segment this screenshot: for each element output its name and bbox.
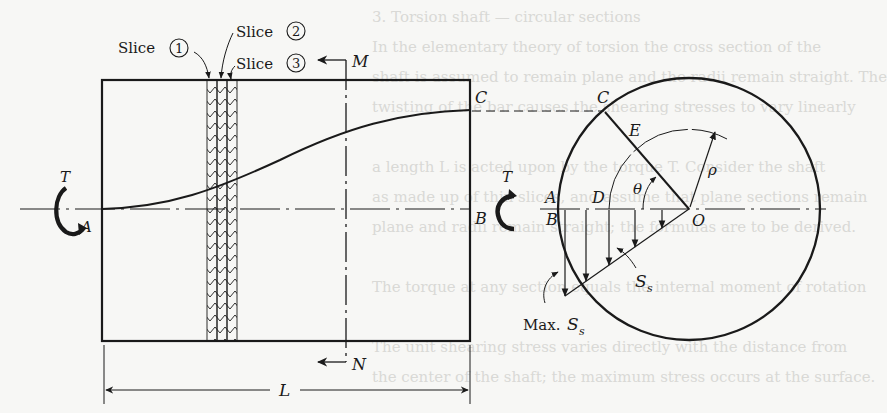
label-max-Ss: Max. S s [523,272,585,338]
label-max-Ss-sub: s [579,325,585,338]
slice-3-text: Slice [236,55,273,73]
shaft-outline [102,80,470,341]
label-T-left: T [60,168,71,186]
radius-OC [605,112,689,209]
slice-3-number: 3 [292,56,300,71]
label-D: D [591,188,605,207]
label-A-left: A [79,218,92,236]
label-C-section: C [597,88,609,107]
label-Ss-sub: s [647,282,653,295]
slices-strip [207,80,237,341]
label-theta: θ [633,180,642,198]
label-A-section: A [543,188,557,207]
twist-curve-A-to-C [102,110,470,209]
slice-2-text: Slice [236,23,273,41]
label-max-prefix: Max. [523,316,561,334]
torque-right: T [498,168,517,229]
slice-1-number: 1 [175,41,183,56]
shear-stress-distribution [565,209,689,296]
label-O: O [692,211,705,230]
label-T-right: T [502,168,513,186]
theta-arc [643,177,656,209]
label-M: M [351,52,369,71]
shaft-view: M N Slice 1 Slice 2 Slice 3 T A [20,22,487,404]
slice-2-number: 2 [292,24,300,39]
label-E: E [628,121,641,140]
label-C-shaft: C [475,88,487,107]
slice-1-label: Slice 1 [118,39,209,78]
torque-arrow-icon [498,196,514,229]
label-rho: ρ [707,161,717,179]
torque-left: T A [56,168,92,236]
label-B-shaft: B [474,209,487,228]
label-N: N [351,355,367,374]
slice-1-text: Slice [118,39,155,57]
label-L: L [278,380,290,400]
dimension-L: L [104,345,470,404]
slice-3-label: Slice 3 [231,54,305,79]
label-max-Ss-main: S [567,314,579,334]
label-Ss-main: S [635,271,647,291]
label-B-section: B [545,210,558,229]
cross-section: C E A B D θ ρ O S s Max. S s [523,78,826,340]
